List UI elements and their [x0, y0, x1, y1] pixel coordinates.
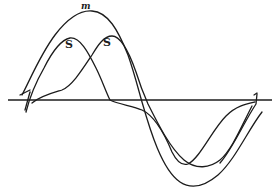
- component-curve-s1: [26, 38, 255, 165]
- label-component-s2: S: [103, 37, 111, 48]
- resultant-curve-m: [22, 11, 262, 186]
- resultant-curve-tail: [20, 90, 30, 95]
- label-resultant-m: m: [81, 2, 91, 11]
- waveform-svg: [0, 0, 277, 196]
- waveform-diagram: m S S: [0, 0, 277, 196]
- label-component-s1: S: [65, 39, 73, 50]
